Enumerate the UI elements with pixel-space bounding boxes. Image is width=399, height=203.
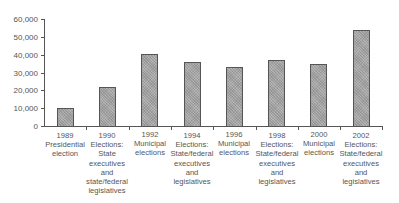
y-tick-label: 0: [0, 122, 38, 131]
bar: [141, 54, 158, 127]
y-tick-label: 20,000: [0, 86, 38, 95]
x-category-label: 1996 Municipal elections: [210, 130, 258, 158]
x-category-label: 1994 Elections: State/federal executives…: [168, 131, 216, 186]
x-tick-mark: [382, 126, 383, 130]
x-category-label: 1990 Elections: State executives and sta…: [83, 131, 131, 195]
x-category-label: 2000 Municipal elections: [295, 130, 343, 158]
y-tick-label: 60,000: [0, 15, 38, 24]
bar: [268, 60, 285, 127]
y-tick-mark: [41, 73, 45, 74]
y-tick-label: 50,000: [0, 33, 38, 42]
x-category-label: 1998 Elections: State/federal executives…: [253, 131, 301, 186]
y-tick-mark: [41, 90, 45, 91]
y-tick-label: 40,000: [0, 51, 38, 60]
bar: [57, 108, 74, 127]
y-tick-label: 30,000: [0, 69, 38, 78]
bar: [226, 67, 243, 127]
x-category-label: 1989 Presidential election: [41, 131, 89, 159]
bar-chart: 010,00020,00030,00040,00050,00060,000198…: [0, 0, 399, 203]
y-tick-mark: [41, 55, 45, 56]
x-tick-mark: [86, 126, 87, 130]
y-tick-mark: [41, 108, 45, 109]
bar: [99, 87, 116, 127]
bar: [310, 64, 327, 127]
x-axis-line: [41, 126, 383, 127]
bar: [184, 62, 201, 127]
y-tick-mark: [41, 126, 45, 127]
y-tick-mark: [41, 37, 45, 38]
y-tick-label: 10,000: [0, 104, 38, 113]
x-category-label: 1992 Municipal elections: [126, 130, 174, 158]
bar: [353, 30, 370, 127]
y-tick-mark: [41, 19, 45, 20]
x-category-label: 2002 Elections: State/federal executives…: [337, 131, 385, 186]
